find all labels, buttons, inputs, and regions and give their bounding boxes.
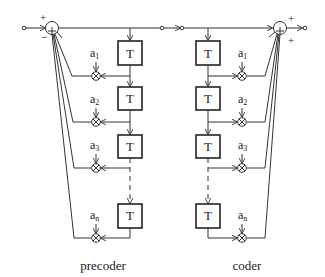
mid-terminal-left	[160, 26, 164, 30]
precoder-coef-a1: a1	[90, 46, 99, 61]
svg-text:T: T	[204, 208, 212, 223]
input-terminal	[22, 26, 26, 30]
coder-feed-n	[247, 34, 280, 238]
svg-text:T: T	[126, 139, 134, 154]
coder-multiplier-1	[238, 72, 247, 81]
svg-text:T: T	[126, 46, 134, 61]
precoder-multiplier-3	[92, 164, 101, 173]
coder-multiplier-2	[238, 118, 247, 127]
svg-text:T: T	[204, 91, 212, 106]
precoder: + − T T T T	[22, 11, 160, 273]
precoder-coef-a3: a3	[90, 138, 99, 153]
precoder-feedback-1	[55, 34, 91, 76]
precoder-coder-diagram: + − T T T T	[0, 0, 325, 277]
precoder-plus-sign: +	[40, 11, 46, 23]
coder-coef-a1: a1	[238, 46, 247, 61]
coder-feed-3	[247, 34, 279, 168]
mid-terminal-right	[180, 26, 184, 30]
svg-text:T: T	[204, 46, 212, 61]
output-terminal	[303, 26, 307, 30]
coder-coef-a2: a2	[238, 92, 247, 107]
precoder-coef-an: an	[90, 208, 99, 223]
coder-plus-sign-top: +	[288, 12, 294, 24]
svg-text:T: T	[126, 91, 134, 106]
precoder-coef-a2: a2	[90, 92, 99, 107]
coder-plus-sign-bottom: +	[288, 34, 294, 46]
svg-text:T: T	[126, 208, 134, 223]
coder-multiplier-3	[238, 164, 247, 173]
coder: + + T T T T	[184, 12, 307, 273]
svg-text:T: T	[204, 139, 212, 154]
coder-coef-a3: a3	[238, 138, 247, 153]
precoder-caption: precoder	[80, 258, 126, 273]
coder-caption: coder	[233, 258, 263, 273]
precoder-multiplier-2	[92, 118, 101, 127]
coder-summing-junction	[274, 22, 287, 36]
precoder-minus-sign: −	[41, 30, 48, 44]
coder-coef-an: an	[238, 208, 247, 223]
precoder-multiplier-1	[92, 72, 101, 81]
coder-multiplier-n	[238, 234, 247, 243]
precoder-multiplier-n	[92, 234, 101, 243]
